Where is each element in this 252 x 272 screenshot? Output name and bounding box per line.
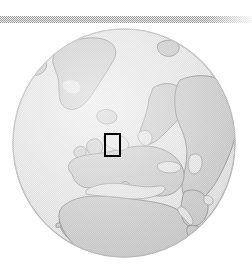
globe bbox=[12, 28, 236, 258]
water-black-sea bbox=[157, 161, 181, 173]
study-area-highlight-box bbox=[104, 133, 121, 157]
land-canary-islands bbox=[56, 223, 61, 227]
land-iceland bbox=[97, 110, 117, 124]
land-horn-of-africa bbox=[187, 225, 207, 242]
dithered-divider-fade bbox=[0, 16, 252, 23]
locator-map-figure bbox=[0, 0, 252, 272]
land-madagascar bbox=[209, 252, 221, 258]
globe-svg bbox=[12, 28, 236, 258]
